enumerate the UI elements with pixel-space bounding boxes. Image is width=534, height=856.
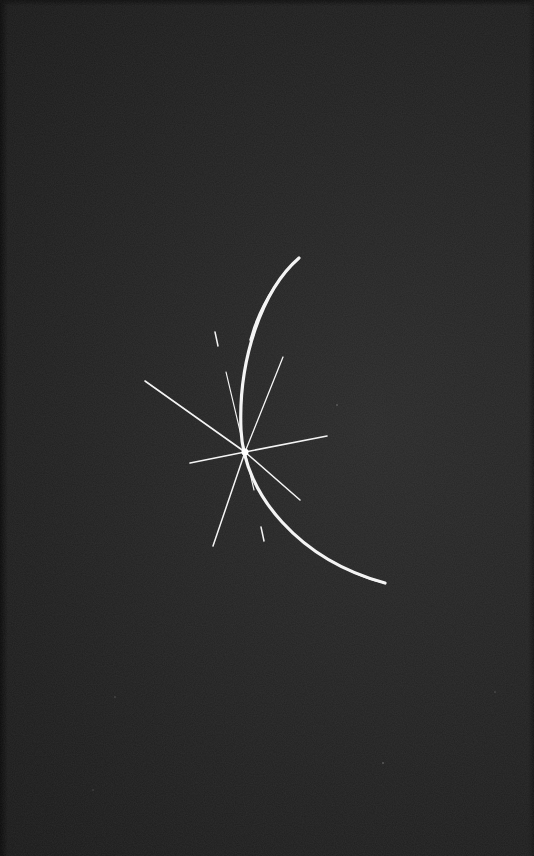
paper-texture (0, 0, 534, 856)
dark-textured-background: Dark textured background with a thin whi… (0, 0, 534, 856)
starburst-core (242, 449, 249, 456)
crescent-starburst-illustration (0, 0, 534, 856)
